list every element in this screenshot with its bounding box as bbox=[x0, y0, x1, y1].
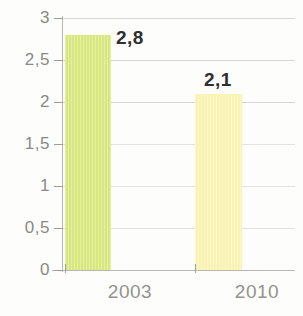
y-axis-label-2-5: 2,5 bbox=[2, 50, 50, 70]
bar-2010[interactable] bbox=[195, 94, 242, 270]
bar-chart: 3 2,5 2 1,5 1 0,5 0 2,8 2,1 2003 2010 bbox=[0, 0, 303, 316]
x-axis-label-2010: 2010 bbox=[235, 281, 279, 303]
y-tick-2-5 bbox=[54, 60, 63, 61]
x-axis-label-2003: 2003 bbox=[108, 281, 152, 303]
plot-area bbox=[63, 18, 295, 270]
x-axis-line bbox=[52, 270, 295, 271]
y-tick-0 bbox=[54, 270, 63, 271]
value-label-2010: 2,1 bbox=[204, 69, 232, 91]
bar-texture bbox=[195, 94, 242, 270]
y-tick-0-5 bbox=[54, 228, 63, 229]
y-axis-label-2: 2 bbox=[2, 92, 50, 112]
bar-texture bbox=[65, 35, 111, 270]
y-tick-3 bbox=[54, 18, 63, 19]
value-label-2003: 2,8 bbox=[116, 27, 144, 49]
bar-2003[interactable] bbox=[65, 35, 111, 270]
y-axis-label-1: 1 bbox=[2, 176, 50, 196]
y-tick-1 bbox=[54, 186, 63, 187]
y-tick-1-5 bbox=[54, 144, 63, 145]
y-axis-label-3: 3 bbox=[2, 8, 50, 28]
y-axis-label-0-5: 0,5 bbox=[2, 218, 50, 238]
x-tick-2010 bbox=[195, 264, 196, 273]
y-axis-label-1-5: 1,5 bbox=[2, 134, 50, 154]
gridline-3 bbox=[63, 18, 295, 19]
y-axis-labels: 3 2,5 2 1,5 1 0,5 0 bbox=[0, 0, 50, 316]
y-axis-label-0: 0 bbox=[2, 260, 50, 280]
y-tick-2 bbox=[54, 102, 63, 103]
x-tick-2003 bbox=[65, 264, 66, 273]
